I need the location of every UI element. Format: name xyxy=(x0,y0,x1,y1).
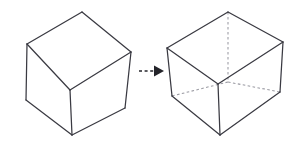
wireframe-cube-silhouette xyxy=(167,12,283,135)
solid-cube xyxy=(26,12,131,135)
transform-arrow-head-icon xyxy=(154,66,164,77)
diagram-canvas: Cube to transparent wireframe cube xyxy=(0,0,294,147)
wireframe-cube xyxy=(167,12,283,135)
transform-arrow xyxy=(139,66,164,77)
cube-transformation-diagram xyxy=(0,0,294,147)
